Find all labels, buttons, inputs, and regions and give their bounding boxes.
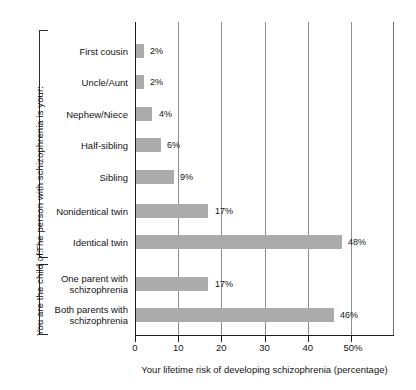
bar-value-label: 4% <box>159 109 172 119</box>
category-label: Identical twin <box>18 237 128 248</box>
category-label: First cousin <box>18 46 128 57</box>
bar-first-cousin <box>135 44 144 58</box>
bar-uncle-aunt <box>135 75 144 89</box>
gridline-50 <box>351 22 352 336</box>
gridline-30 <box>265 22 266 336</box>
plot-right-border <box>393 22 394 336</box>
x-tick-label: 50% <box>343 342 362 353</box>
category-label: Nephew/Niece <box>18 109 128 120</box>
category-label: One parent with schizophrenia <box>18 273 128 295</box>
bar-value-label: 46% <box>340 310 358 320</box>
category-label: Half-sibling <box>18 140 128 151</box>
bar-both-parents <box>135 308 334 322</box>
x-tick-label: 20 <box>216 342 227 353</box>
bar-half-sibling <box>135 138 161 152</box>
bar-sibling <box>135 170 174 184</box>
schizophrenia-risk-bar-chart: The person with schizophrenia is your: Y… <box>0 0 416 390</box>
bar-identical-twin <box>135 235 342 249</box>
bar-value-label: 48% <box>348 237 366 247</box>
plot-area: 2% 2% 4% 6% 9% 17% 48% 17% 46% <box>135 22 394 336</box>
category-label: Nonidentical twin <box>18 206 128 217</box>
bar-value-label: 17% <box>215 279 233 289</box>
y-axis-line <box>135 22 136 336</box>
x-tick-label: 30 <box>259 342 270 353</box>
category-label: Uncle/Aunt <box>18 77 128 88</box>
bar-nephew-niece <box>135 107 152 121</box>
bar-value-label: 2% <box>150 46 163 56</box>
category-label: Sibling <box>18 172 128 183</box>
gridline-40 <box>308 22 309 336</box>
bar-value-label: 17% <box>215 206 233 216</box>
category-label: Both parents with schizophrenia <box>18 304 128 326</box>
bar-one-parent <box>135 277 208 291</box>
bar-value-label: 6% <box>167 140 180 150</box>
x-axis-title: Your lifetime risk of developing schizop… <box>135 364 394 375</box>
bar-nonidentical-twin <box>135 204 208 218</box>
x-tick-label: 0 <box>132 342 137 353</box>
bar-value-label: 2% <box>150 77 163 87</box>
bar-value-label: 9% <box>180 172 193 182</box>
x-tick-label: 40 <box>302 342 313 353</box>
x-tick-label: 10 <box>173 342 184 353</box>
